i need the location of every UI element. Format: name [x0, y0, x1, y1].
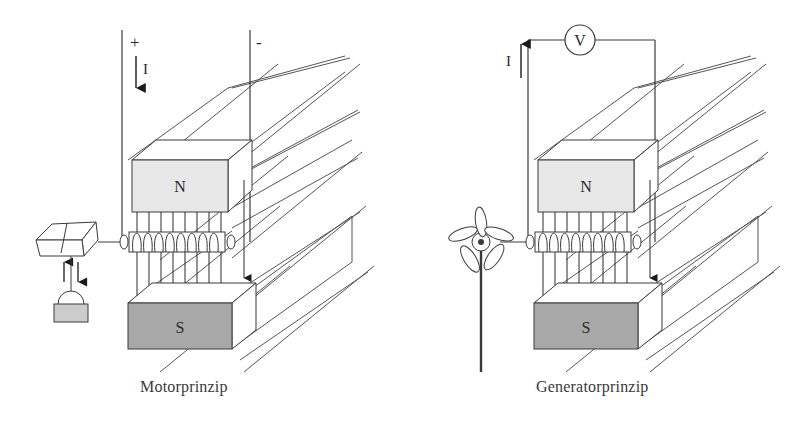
terminal-positive-label: + [130, 33, 140, 52]
magnet-north-label: N [174, 178, 186, 195]
annotation-labels: + - I I [130, 33, 511, 77]
voltmeter-generator: V [565, 25, 595, 55]
magnet-north-motor: N [132, 140, 252, 212]
magnet-north-generator: N [538, 140, 658, 212]
coil-terminal-left [120, 235, 128, 249]
panel-motorprinzip: N [36, 30, 374, 372]
magnet-south-motor: S [128, 283, 256, 349]
current-label-generator: I [506, 53, 511, 69]
current-label-motor: I [143, 61, 148, 77]
coil-motor [98, 232, 235, 252]
physics-diagram-svg: N [0, 0, 802, 430]
wind-turbine-generator [447, 206, 515, 372]
hoist-arrows-motor [64, 256, 78, 292]
voltmeter-label: V [574, 32, 586, 49]
winch-drum-motor [36, 222, 98, 256]
figure-canvas: N [0, 0, 802, 430]
coil-terminal-left [526, 235, 534, 249]
coil-terminal-right [227, 235, 235, 249]
magnet-south-label: S [176, 319, 185, 336]
coil-terminal-right [633, 235, 641, 249]
terminal-negative-label: - [256, 33, 262, 52]
magnet-north-label: N [580, 178, 592, 195]
coil-generator [500, 232, 641, 252]
weight-motor [54, 291, 88, 322]
panel-generatorprinzip: V N [447, 25, 780, 372]
magnet-south-label: S [582, 319, 591, 336]
magnet-south-generator: S [534, 283, 662, 349]
